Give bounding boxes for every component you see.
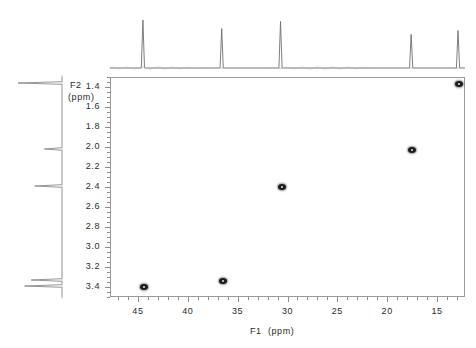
- f2-tick-label: 2.0: [66, 141, 100, 151]
- cross-peak-core: [143, 286, 145, 288]
- f1-major-tick: [138, 297, 139, 302]
- f1-minor-tick: [377, 297, 378, 300]
- f1-minor-tick: [417, 297, 418, 300]
- f1-tick-label: 25: [325, 306, 349, 316]
- f1-axis-title: F1 (ppm): [250, 326, 294, 336]
- f1-major-tick: [387, 297, 388, 302]
- f1-minor-tick: [158, 297, 159, 300]
- f1-minor-tick: [258, 297, 259, 300]
- f1-minor-tick: [148, 297, 149, 300]
- f1-major-tick: [337, 297, 338, 302]
- spectrum-plot-area[interactable]: [110, 77, 465, 297]
- proton-projection-path: [18, 77, 62, 297]
- cross-peak[interactable]: [455, 81, 463, 87]
- f1-major-tick: [437, 297, 438, 302]
- f1-tick-label: 30: [276, 306, 300, 316]
- f1-minor-tick: [178, 297, 179, 300]
- f1-minor-tick: [228, 297, 229, 300]
- f1-minor-tick: [128, 297, 129, 300]
- cross-peak[interactable]: [140, 284, 148, 290]
- f2-tick-label: 2.6: [66, 201, 100, 211]
- f2-tick-label: 2.8: [66, 221, 100, 231]
- f1-minor-tick: [297, 297, 298, 300]
- carbon-projection-trace: [0, 0, 476, 76]
- proton-projection-svg: [0, 0, 70, 348]
- proton-projection-trace: [0, 0, 70, 348]
- f2-tick-label: 2.2: [66, 161, 100, 171]
- f1-minor-tick: [218, 297, 219, 300]
- f1-minor-tick: [427, 297, 428, 300]
- f2-tick-label: 1.6: [66, 101, 100, 111]
- f2-minor-tick: [107, 297, 110, 298]
- cross-peak-core: [411, 149, 413, 151]
- carbon-projection-path: [110, 20, 465, 68]
- f1-major-tick: [288, 297, 289, 302]
- cross-peak[interactable]: [408, 147, 416, 153]
- f1-minor-tick: [327, 297, 328, 300]
- f1-minor-tick: [317, 297, 318, 300]
- cross-peak-core: [458, 83, 460, 85]
- cross-peak[interactable]: [219, 278, 227, 284]
- f2-tick-label: 3.2: [66, 261, 100, 271]
- f1-minor-tick: [118, 297, 119, 300]
- f1-minor-tick: [457, 297, 458, 300]
- f1-tick-label: 40: [176, 306, 200, 316]
- f1-minor-tick: [307, 297, 308, 300]
- nmr-spectrum-figure: F2 (ppm) F1 (ppm) 1.41.61.82.02.22.42.62…: [0, 0, 476, 348]
- f2-tick-label: 1.4: [66, 81, 100, 91]
- f1-minor-tick: [407, 297, 408, 300]
- f1-minor-tick: [268, 297, 269, 300]
- f1-minor-tick: [168, 297, 169, 300]
- f1-minor-tick: [208, 297, 209, 300]
- f1-tick-label: 45: [126, 306, 150, 316]
- f1-minor-tick: [367, 297, 368, 300]
- cross-peak[interactable]: [278, 184, 286, 190]
- f1-minor-tick: [248, 297, 249, 300]
- f1-minor-tick: [447, 297, 448, 300]
- f1-minor-tick: [357, 297, 358, 300]
- cross-peak-core: [222, 280, 224, 282]
- f2-tick-label: 3.4: [66, 281, 100, 291]
- f1-minor-tick: [198, 297, 199, 300]
- f2-tick-label: 1.8: [66, 121, 100, 131]
- carbon-projection-svg: [0, 0, 476, 76]
- f1-tick-label: 15: [425, 306, 449, 316]
- f1-minor-tick: [347, 297, 348, 300]
- f2-tick-label: 2.4: [66, 181, 100, 191]
- f1-tick-label: 35: [226, 306, 250, 316]
- cross-peak-core: [281, 186, 283, 188]
- f1-major-tick: [188, 297, 189, 302]
- f1-minor-tick: [278, 297, 279, 300]
- f1-tick-label: 20: [375, 306, 399, 316]
- f1-major-tick: [238, 297, 239, 302]
- f2-tick-label: 3.0: [66, 241, 100, 251]
- f1-minor-tick: [397, 297, 398, 300]
